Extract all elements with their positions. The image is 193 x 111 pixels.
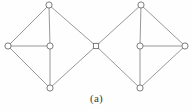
left-bottom-node	[47, 85, 53, 91]
edge-right-top-to-right-center	[140, 5, 141, 46]
left-center-node	[47, 43, 53, 49]
left-top-node	[46, 2, 52, 8]
node-layer	[5, 2, 188, 91]
right-center-node	[137, 43, 143, 49]
right-top-node	[138, 2, 144, 8]
figure-container: (a)	[0, 0, 193, 111]
edge-left-left-to-left-top	[8, 5, 49, 46]
edge-left-left-to-left-bottom	[8, 46, 50, 88]
edge-right-bottom-to-right-right	[140, 46, 185, 88]
left-left-node	[5, 43, 11, 49]
right-bottom-node	[137, 85, 143, 91]
figure-caption: (a)	[0, 92, 193, 105]
edge-right-top-to-right-right	[141, 5, 185, 46]
edge-junction-to-right-top	[96, 5, 141, 46]
edge-left-bottom-to-junction	[50, 46, 96, 88]
edge-left-top-to-junction	[49, 5, 96, 46]
right-right-node	[182, 43, 188, 49]
edge-junction-to-right-bottom	[96, 46, 140, 88]
shared-junction-node	[93, 43, 98, 48]
edge-left-top-to-left-center	[49, 5, 50, 46]
